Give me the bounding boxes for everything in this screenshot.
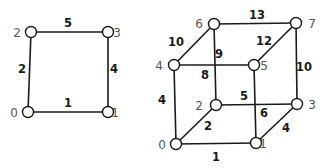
edge-weight-label: 1 xyxy=(64,96,72,110)
node-label: 1 xyxy=(259,137,267,151)
edge-weight-label: 1 xyxy=(212,150,220,164)
node-label: 7 xyxy=(308,17,316,31)
node-label: 6 xyxy=(195,17,203,31)
edge-6-7 xyxy=(214,23,296,24)
edge-weight-label: 12 xyxy=(256,34,272,48)
cube-graph: 124465891010121301234567 xyxy=(155,8,316,164)
node-7 xyxy=(291,18,302,29)
node-label: 1 xyxy=(111,106,119,120)
hypercube-diagram: 12540123 124465891010121301234567 xyxy=(0,0,332,168)
edge-2-3 xyxy=(216,104,297,105)
edge-0-1 xyxy=(176,143,256,144)
edge-weight-label: 5 xyxy=(240,89,248,103)
node-label: 2 xyxy=(195,99,203,113)
edge-0-4 xyxy=(174,65,176,144)
edge-weight-label: 10 xyxy=(296,60,312,74)
edge-weight-label: 9 xyxy=(215,47,223,61)
node-3 xyxy=(103,27,114,38)
edge-weight-label: 5 xyxy=(64,16,72,30)
node-5 xyxy=(249,60,260,71)
edge-weight-label: 8 xyxy=(201,68,209,82)
node-4 xyxy=(169,60,180,71)
square-graph: 12540123 xyxy=(10,16,121,120)
edge-weight-label: 10 xyxy=(168,35,184,49)
node-label: 0 xyxy=(10,106,18,120)
node-2 xyxy=(211,100,222,111)
node-label: 5 xyxy=(260,59,268,73)
edge-weight-label: 4 xyxy=(158,93,166,107)
node-label: 4 xyxy=(155,59,163,73)
edge-weight-label: 4 xyxy=(282,121,290,135)
edge-weight-label: 2 xyxy=(18,62,26,76)
node-label: 3 xyxy=(308,98,316,112)
node-0 xyxy=(171,139,182,150)
edge-weight-label: 6 xyxy=(260,106,268,120)
node-0 xyxy=(23,107,34,118)
node-3 xyxy=(292,99,303,110)
edge-weight-label: 13 xyxy=(249,8,265,22)
node-label: 2 xyxy=(13,26,21,40)
node-2 xyxy=(26,27,37,38)
node-6 xyxy=(209,19,220,30)
node-label: 3 xyxy=(113,26,121,40)
edge-weight-label: 2 xyxy=(204,119,212,133)
edge-0-2 xyxy=(28,32,31,112)
edge-weight-label: 4 xyxy=(110,62,118,76)
node-label: 0 xyxy=(158,138,166,152)
